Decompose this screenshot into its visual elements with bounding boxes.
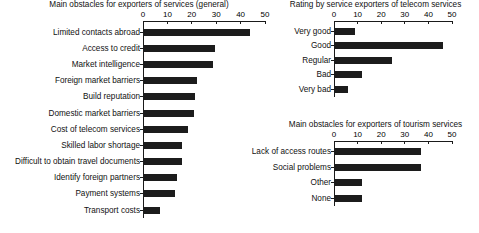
bar bbox=[143, 45, 215, 52]
bar-track bbox=[143, 207, 265, 214]
chart-title-tourism: Main obstacles for exporters of tourism … bbox=[272, 120, 479, 130]
bar bbox=[334, 71, 362, 78]
chart-general: 01020304050 Limited contacts abroadAcces… bbox=[143, 10, 265, 218]
bar-track bbox=[143, 61, 265, 68]
bar-category-label: Regular bbox=[302, 56, 334, 65]
bar-category-label: Access to credit bbox=[82, 44, 143, 53]
bar-category-label: Very bad bbox=[299, 85, 334, 94]
bar-category-label: Very good bbox=[294, 27, 334, 36]
x-tick-label: 50 bbox=[261, 10, 270, 19]
x-tick-label: 30 bbox=[400, 130, 409, 139]
bar bbox=[334, 57, 392, 64]
bar-row: Identify foreign partners bbox=[143, 170, 265, 186]
plot-area-tourism: Lack of access routesSocial problemsOthe… bbox=[334, 144, 452, 206]
x-tick-label: 10 bbox=[353, 130, 362, 139]
bar-row: Social problems bbox=[334, 160, 452, 176]
bar-track bbox=[334, 164, 452, 171]
bar-track bbox=[143, 126, 265, 133]
bar-category-label: Payment systems bbox=[75, 189, 143, 198]
bar-row: Cost of telecom services bbox=[143, 121, 265, 137]
bar-track bbox=[334, 71, 452, 78]
bar-track bbox=[143, 174, 265, 181]
x-tick-label: 40 bbox=[424, 130, 433, 139]
bar-row: Lack of access routes bbox=[334, 144, 452, 160]
bar bbox=[143, 29, 250, 36]
x-tick-label: 0 bbox=[141, 10, 145, 19]
x-tick-label: 30 bbox=[212, 10, 221, 19]
plot-area-telecom: Very goodGoodRegularBadVery bad bbox=[334, 24, 452, 97]
x-tick-label: 40 bbox=[236, 10, 245, 19]
bar-row: Build reputation bbox=[143, 89, 265, 105]
bar-category-label: Domestic market barriers bbox=[49, 109, 143, 118]
bar-row: Difficult to obtain travel documents bbox=[143, 154, 265, 170]
bar-row: Foreign market barriers bbox=[143, 73, 265, 89]
x-tick-label: 50 bbox=[448, 130, 457, 139]
bar-track bbox=[334, 57, 452, 64]
x-tick-label: 10 bbox=[353, 10, 362, 19]
bar-category-label: Skilled labor shortage bbox=[61, 141, 143, 150]
x-tick-label: 20 bbox=[187, 10, 196, 19]
bar-row: None bbox=[334, 191, 452, 207]
bar-track bbox=[334, 28, 452, 35]
bar bbox=[334, 195, 362, 202]
bar-category-label: Identify foreign partners bbox=[54, 173, 143, 182]
bar-row: Bad bbox=[334, 68, 452, 83]
bar bbox=[143, 158, 182, 165]
bar-category-label: Foreign market barriers bbox=[55, 76, 143, 85]
bar-category-label: Lack of access routes bbox=[252, 147, 334, 156]
bar-row: Very good bbox=[334, 24, 452, 39]
bar bbox=[143, 93, 195, 100]
bar-row: Other bbox=[334, 175, 452, 191]
bar bbox=[143, 110, 194, 117]
bar-category-label: Market intelligence bbox=[72, 60, 143, 69]
bar-track bbox=[143, 158, 265, 165]
bar-category-label: Limited contacts abroad bbox=[53, 28, 143, 37]
bar-category-label: Social problems bbox=[273, 163, 334, 172]
chart-panel-tourism: Main obstacles for exporters of tourism … bbox=[272, 120, 479, 206]
bar-row: Market intelligence bbox=[143, 56, 265, 72]
x-tick-label: 0 bbox=[332, 10, 336, 19]
x-tick-label: 40 bbox=[424, 10, 433, 19]
x-tick-label: 0 bbox=[332, 130, 336, 139]
x-tick-label: 30 bbox=[400, 10, 409, 19]
bar bbox=[334, 179, 362, 186]
x-tick-label: 50 bbox=[448, 10, 457, 19]
x-axis-line bbox=[334, 21, 452, 22]
bar bbox=[334, 42, 443, 49]
bar-track bbox=[143, 93, 265, 100]
x-axis-telecom: 01020304050 bbox=[334, 10, 452, 24]
x-axis-general: 01020304050 bbox=[143, 10, 265, 24]
bar-row: Limited contacts abroad bbox=[143, 24, 265, 40]
bar-row: Very bad bbox=[334, 82, 452, 97]
bar-category-label: Other bbox=[311, 178, 334, 187]
x-axis-line bbox=[143, 21, 265, 22]
x-axis-line bbox=[334, 141, 452, 142]
bar bbox=[334, 148, 421, 155]
bar-category-label: Good bbox=[311, 41, 334, 50]
bar-row: Domestic market barriers bbox=[143, 105, 265, 121]
bar-track bbox=[143, 45, 265, 52]
x-tick-label: 20 bbox=[377, 130, 386, 139]
bar-track bbox=[143, 190, 265, 197]
bar-category-label: Bad bbox=[316, 70, 334, 79]
bar bbox=[334, 164, 421, 171]
bar-track bbox=[334, 42, 452, 49]
bar-row: Access to credit bbox=[143, 40, 265, 56]
bar bbox=[143, 190, 175, 197]
bar bbox=[143, 174, 177, 181]
bar-category-label: Transport costs bbox=[84, 206, 143, 215]
chart-telecom: 01020304050 Very goodGoodRegularBadVery … bbox=[334, 10, 452, 97]
bar bbox=[334, 28, 355, 35]
chart-panel-telecom: Rating by service exporters of telecom s… bbox=[272, 0, 479, 97]
bar-category-label: Difficult to obtain travel documents bbox=[15, 157, 143, 166]
bar-row: Regular bbox=[334, 53, 452, 68]
chart-title-general: Main obstacles for exporters of services… bbox=[0, 0, 272, 10]
bar-category-label: None bbox=[311, 194, 334, 203]
x-tick-label: 10 bbox=[163, 10, 172, 19]
bar-track bbox=[334, 148, 452, 155]
plot-area-general: Limited contacts abroadAccess to creditM… bbox=[143, 24, 265, 218]
bar-track bbox=[143, 110, 265, 117]
bar-category-label: Cost of telecom services bbox=[51, 125, 143, 134]
bar-track bbox=[143, 142, 265, 149]
bar-row: Good bbox=[334, 39, 452, 54]
